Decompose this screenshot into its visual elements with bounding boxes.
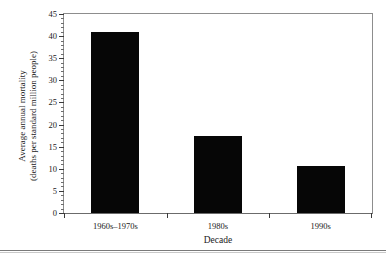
y-axis-minor-tick — [61, 138, 64, 139]
y-axis-minor-tick — [61, 67, 64, 68]
x-axis-category-label: 1960s–1970s — [93, 222, 138, 231]
y-axis-minor-tick — [61, 182, 64, 183]
y-axis-minor-tick — [61, 116, 64, 117]
y-axis-minor-tick — [61, 195, 64, 196]
y-axis-tick-label: 30 — [49, 76, 58, 85]
y-axis-minor-tick — [61, 98, 64, 99]
figure-separator-rule-secondary — [0, 252, 386, 253]
x-axis-tick — [371, 213, 372, 218]
y-axis-minor-tick — [61, 209, 64, 210]
y-axis-tick-label: 10 — [49, 165, 58, 174]
y-axis-tick-label: 25 — [49, 98, 58, 107]
y-axis-minor-tick — [61, 54, 64, 55]
bar — [194, 136, 242, 213]
x-axis-tick — [167, 213, 168, 218]
x-axis-title: Decade — [63, 236, 373, 246]
bar — [297, 166, 345, 213]
y-axis-minor-tick — [61, 18, 64, 19]
y-axis-minor-tick — [61, 133, 64, 134]
y-axis-major-tick — [59, 125, 64, 126]
figure-separator-rule — [0, 250, 386, 251]
y-axis-minor-tick — [61, 173, 64, 174]
y-axis-minor-tick — [61, 45, 64, 46]
y-axis-tick-label: 15 — [49, 142, 58, 151]
y-axis-minor-tick — [61, 89, 64, 90]
y-axis-minor-tick — [61, 160, 64, 161]
y-axis-major-tick — [59, 80, 64, 81]
plot-area: 0510152025303540451960s–1970s1980s1990s — [63, 13, 373, 214]
y-axis-tick-label: 45 — [49, 10, 58, 19]
y-axis-title-line-2: (deaths per standard million people) — [28, 11, 39, 221]
x-axis-category-label: 1980s — [208, 222, 228, 231]
y-axis-minor-tick — [61, 129, 64, 130]
y-axis-major-tick — [59, 36, 64, 37]
bar — [91, 32, 139, 213]
x-axis-tick — [269, 213, 270, 218]
y-axis-title-line-1: Average annual mortality — [17, 11, 28, 221]
y-axis-minor-tick — [61, 156, 64, 157]
y-axis-minor-tick — [61, 107, 64, 108]
y-axis-major-tick — [59, 14, 64, 15]
y-axis-minor-tick — [61, 186, 64, 187]
y-axis-minor-tick — [61, 111, 64, 112]
y-axis-minor-tick — [61, 151, 64, 152]
y-axis-major-tick — [59, 102, 64, 103]
y-axis-major-tick — [59, 191, 64, 192]
y-axis-minor-tick — [61, 41, 64, 42]
y-axis-minor-tick — [61, 200, 64, 201]
y-axis-title: Average annual mortality (deaths per sta… — [17, 11, 39, 221]
y-axis-minor-tick — [61, 71, 64, 72]
y-axis-tick-label: 0 — [53, 209, 57, 218]
figure-container: 0510152025303540451960s–1970s1980s1990s … — [0, 0, 386, 263]
x-axis-tick — [64, 213, 65, 218]
y-axis-minor-tick — [61, 49, 64, 50]
y-axis-major-tick — [59, 147, 64, 148]
y-axis-minor-tick — [61, 63, 64, 64]
y-axis-minor-tick — [61, 204, 64, 205]
y-axis-minor-tick — [61, 23, 64, 24]
y-axis-minor-tick — [61, 178, 64, 179]
y-axis-minor-tick — [61, 32, 64, 33]
y-axis-tick-label: 5 — [53, 187, 57, 196]
y-axis-minor-tick — [61, 85, 64, 86]
y-axis-tick-label: 40 — [49, 32, 58, 41]
y-axis-major-tick — [59, 58, 64, 59]
y-axis-minor-tick — [61, 142, 64, 143]
y-axis-major-tick — [59, 169, 64, 170]
y-axis-minor-tick — [61, 164, 64, 165]
y-axis-minor-tick — [61, 94, 64, 95]
y-axis-tick-label: 20 — [49, 120, 58, 129]
x-axis-category-label: 1990s — [311, 222, 331, 231]
y-axis-tick-label: 35 — [49, 54, 58, 63]
y-axis-minor-tick — [61, 27, 64, 28]
y-axis-minor-tick — [61, 76, 64, 77]
y-axis-minor-tick — [61, 120, 64, 121]
